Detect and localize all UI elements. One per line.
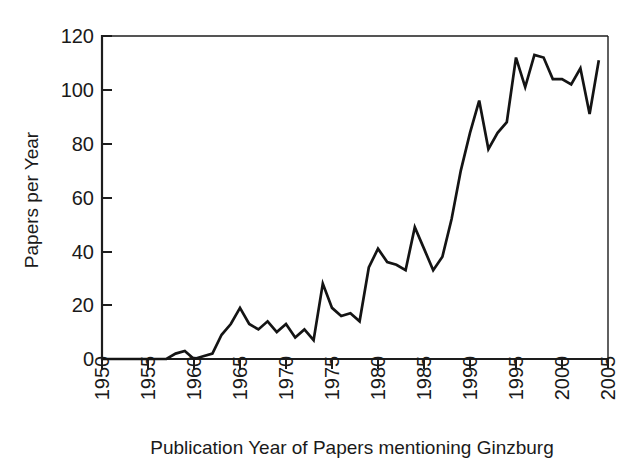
y-tick-label-20: 20: [72, 294, 94, 316]
x-tick-label-1965: 1965: [229, 356, 251, 401]
y-tick-label-40: 40: [72, 241, 94, 263]
y-axis-title: Papers per Year: [21, 131, 42, 268]
x-tick-label-1990: 1990: [459, 356, 481, 401]
chart-container: 0 20 40 60 80 100 120 1950 1955: [0, 0, 642, 470]
y-tick-label-80: 80: [72, 133, 94, 155]
x-tick-label-1950: 1950: [91, 356, 113, 401]
data-series-line: [102, 55, 599, 359]
x-ticks-group: [102, 359, 608, 369]
x-axis-title: Publication Year of Papers mentioning Gi…: [150, 437, 553, 458]
axes-group: [102, 36, 608, 359]
y-tick-labels-group: 0 20 40 60 80 100 120: [61, 25, 94, 370]
y-tick-label-100: 100: [61, 79, 94, 101]
x-tick-label-1955: 1955: [137, 356, 159, 401]
line-chart-svg: 0 20 40 60 80 100 120 1950 1955: [0, 0, 642, 470]
y-tick-label-120: 120: [61, 25, 94, 47]
x-tick-label-1960: 1960: [183, 356, 205, 401]
y-ticks-group: [102, 36, 112, 359]
x-tick-label-1980: 1980: [367, 356, 389, 401]
x-tick-labels-group: 1950 1955 1960 1965 1970 1975 1980 1985 …: [91, 356, 619, 401]
x-tick-label-2005: 2005: [597, 356, 619, 401]
y-tick-label-60: 60: [72, 187, 94, 209]
x-tick-label-1985: 1985: [413, 356, 435, 401]
x-tick-label-1995: 1995: [505, 356, 527, 401]
x-tick-label-2000: 2000: [551, 356, 573, 401]
x-tick-label-1975: 1975: [321, 356, 343, 401]
x-tick-label-1970: 1970: [275, 356, 297, 401]
